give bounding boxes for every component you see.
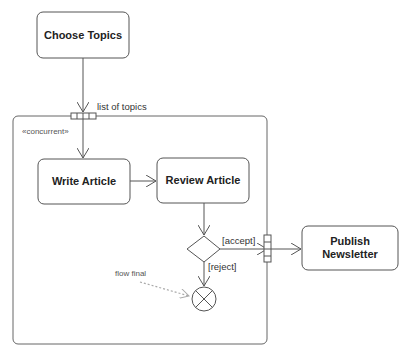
action-label-line1: Publish — [330, 235, 370, 247]
region-stereotype: «concurrent» — [22, 127, 69, 136]
annotation-arrow — [140, 282, 189, 296]
action-label: Write Article — [52, 175, 116, 187]
flow-final-annotation: flow final — [115, 269, 146, 278]
decision-node[interactable] — [187, 236, 220, 262]
action-label-line2: Newsletter — [322, 248, 378, 260]
activity-diagram: «concurrent» Choose Topics list of topic… — [0, 0, 408, 359]
guard-reject: [reject] — [208, 261, 237, 272]
action-review-article[interactable]: Review Article — [157, 158, 249, 203]
flow-final-node[interactable] — [192, 287, 216, 311]
action-publish-newsletter[interactable]: Publish Newsletter — [302, 226, 398, 270]
expansion-region: «concurrent» — [13, 116, 267, 344]
action-label: Review Article — [166, 174, 241, 186]
input-expansion-node[interactable] — [71, 113, 96, 119]
action-label: Choose Topics — [44, 29, 122, 41]
action-choose-topics[interactable]: Choose Topics — [37, 12, 129, 58]
guard-accept: [accept] — [222, 235, 255, 246]
input-pin-label: list of topics — [97, 101, 147, 112]
action-write-article[interactable]: Write Article — [38, 159, 130, 204]
output-expansion-node[interactable] — [264, 235, 271, 262]
